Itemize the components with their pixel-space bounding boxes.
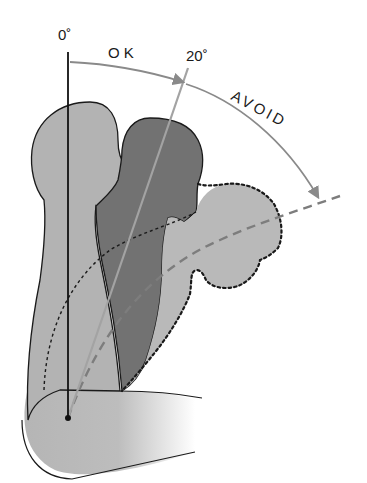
- ok-arc: [70, 62, 183, 82]
- avoid-label: AVOID: [229, 87, 290, 130]
- ok-label: OK: [108, 44, 138, 61]
- seat-base: [24, 388, 195, 474]
- posture-diagram: 0˚ 20˚ OK AVOID: [0, 0, 367, 483]
- angle-zero-label: 0˚: [58, 26, 71, 43]
- pivot-point: [65, 415, 71, 421]
- angle-twenty-label: 20˚: [186, 47, 208, 64]
